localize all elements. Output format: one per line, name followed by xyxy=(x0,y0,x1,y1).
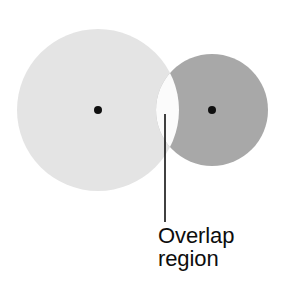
figure-root: Overlap region xyxy=(0,0,282,296)
overlap-callout-label-line-1: Overlap xyxy=(158,224,278,247)
left-center-dot xyxy=(94,106,102,114)
overlap-callout-label-line-2: region xyxy=(158,247,278,270)
right-center-dot xyxy=(208,106,216,114)
overlap-callout-label: Overlap region xyxy=(158,224,278,271)
